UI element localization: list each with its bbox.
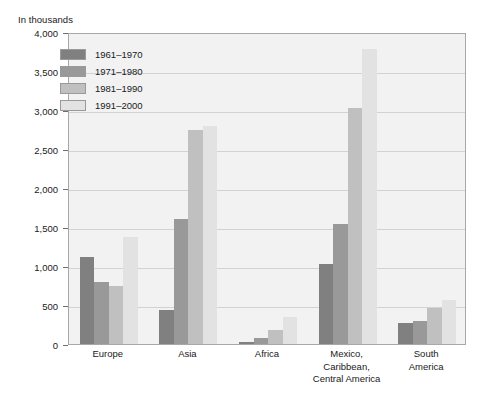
- legend-item: 1981–1990: [60, 80, 182, 96]
- bar: [109, 286, 124, 344]
- bar: [123, 237, 138, 344]
- y-axis-tick-label: 4,000: [34, 28, 58, 39]
- bar: [427, 308, 442, 344]
- bar: [188, 130, 203, 345]
- y-axis-tick-label: 1,500: [34, 223, 58, 234]
- legend-item-label: 1981–1990: [95, 83, 143, 94]
- bar: [254, 338, 269, 344]
- legend-item: 1991–2000: [60, 97, 182, 113]
- bar: [174, 219, 189, 344]
- legend-item-label: 1971–1980: [95, 66, 143, 77]
- bar: [398, 323, 413, 344]
- bar: [159, 310, 174, 344]
- bar: [362, 49, 377, 344]
- bar: [94, 282, 109, 344]
- legend-item: 1971–1980: [60, 63, 182, 79]
- bar: [239, 342, 254, 344]
- x-axis-category-labels: EuropeAsiaAfricaMexico, Caribbean, Centr…: [68, 348, 466, 396]
- x-axis-category-label: South America: [366, 348, 477, 373]
- bar: [268, 330, 283, 344]
- bar-group: [319, 34, 377, 344]
- bar: [442, 300, 457, 344]
- bar-chart-figure: In thousands 05001,0001,5002,0002,5003,0…: [0, 0, 477, 396]
- bar: [348, 108, 363, 344]
- y-axis-tick-label: 1,000: [34, 262, 58, 273]
- bar: [283, 317, 298, 344]
- y-axis-tick-label: 3,500: [34, 67, 58, 78]
- bar: [319, 264, 334, 344]
- bar: [333, 224, 348, 344]
- legend-swatch-icon: [60, 49, 86, 60]
- bar-group: [239, 34, 297, 344]
- y-axis-tick-label: 2,000: [34, 184, 58, 195]
- y-axis: 05001,0001,5002,0002,5003,0003,5004,000: [0, 33, 68, 345]
- legend-swatch-icon: [60, 66, 86, 77]
- axis-unit-caption: In thousands: [18, 14, 73, 25]
- y-axis-tick-label: 2,500: [34, 145, 58, 156]
- bar: [80, 257, 95, 344]
- bar: [203, 126, 218, 344]
- y-axis-tick-label: 500: [42, 301, 58, 312]
- y-axis-tick-label: 3,000: [34, 106, 58, 117]
- legend-item-label: 1991–2000: [95, 100, 143, 111]
- legend-item-label: 1961–1970: [95, 49, 143, 60]
- legend-swatch-icon: [60, 100, 86, 111]
- legend-item: 1961–1970: [60, 46, 182, 62]
- bar-group: [398, 34, 456, 344]
- bar: [413, 321, 428, 344]
- legend-swatch-icon: [60, 83, 86, 94]
- chart-legend: 1961–19701971–19801981–19901991–2000: [60, 46, 182, 114]
